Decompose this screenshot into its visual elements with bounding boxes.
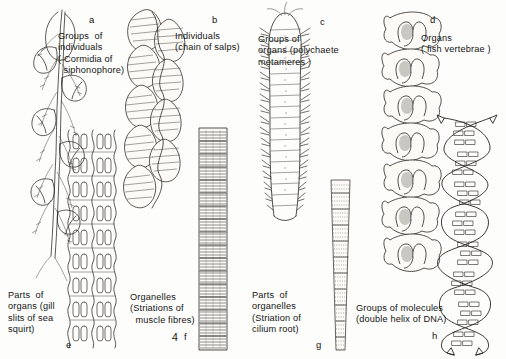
caption-d: Organs ( fish vertebrae ) (421, 33, 491, 56)
panel-letter-g: g (316, 339, 321, 350)
panel-letter-d: d (430, 14, 435, 25)
caption-h: Groups of molecules (double helix of DNA… (356, 303, 446, 326)
caption-a: Groups of individuals ( Cormidia of siph… (58, 31, 124, 77)
panel-letter-f: f (184, 331, 187, 342)
figure-plate: a Groups of individuals ( Cormidia of si… (0, 0, 506, 359)
panel-letter-e: e (66, 339, 71, 350)
panel-letter-b: b (212, 14, 217, 25)
illustration-muscle-striations (196, 128, 230, 350)
caption-b: Individuals (chain of salps) (175, 31, 240, 54)
illustration-cilium-root (328, 180, 354, 352)
caption-e: Parts of organs (gill slits of sea squir… (8, 290, 55, 336)
panel-letter-a: a (89, 14, 94, 25)
panel-letter-h: h (432, 330, 437, 341)
figure-number: 4 (172, 331, 178, 343)
panel-letter-c: c (320, 16, 325, 27)
illustration-gill-slits (63, 128, 119, 350)
caption-c: Groups of organs (polychaete metameres ) (258, 34, 339, 68)
caption-g: Parts of organelles (Striation of cilium… (252, 290, 301, 336)
caption-f: Organelles (Striations of muscle fibres) (130, 292, 195, 326)
